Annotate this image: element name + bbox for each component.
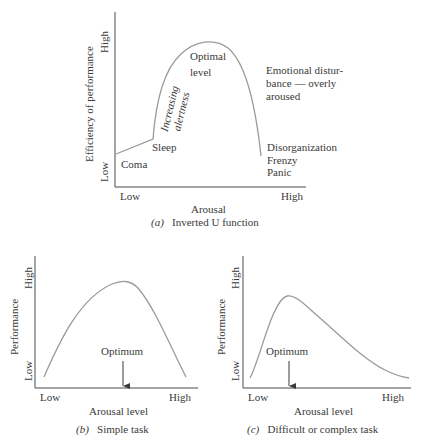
chart-a-caption-letter: (a)	[151, 216, 164, 228]
chart-c-x-label: Arousal level	[294, 405, 353, 418]
annotation-disorg-line1: Disorganization	[267, 141, 337, 154]
chart-c-caption: (c) Difficult or complex task	[247, 423, 378, 436]
chart-b-optimum-label: Optimum	[101, 345, 143, 358]
chart-c-axes	[243, 256, 411, 388]
annotation-emotional-line1: Emotional distur-	[266, 64, 343, 77]
chart-a-y-high: High	[98, 31, 111, 53]
chart-c-y-high: High	[229, 267, 242, 289]
chart-b-y-high: High	[22, 267, 35, 289]
chart-a-y-low: Low	[98, 162, 111, 182]
chart-c-x-high: High	[382, 391, 404, 404]
chart-c-optimum-label: Optimum	[266, 345, 308, 358]
chart-a-caption-text: Inverted U function	[172, 216, 259, 228]
chart-a-caption: (a) Inverted U function	[151, 216, 259, 229]
annotation-emotional-line3: aroused	[266, 90, 300, 103]
chart-b-caption-text: Simple task	[97, 423, 149, 435]
chart-b-y-label: Performance	[8, 299, 21, 355]
annotation-optimal-line2: level	[190, 66, 211, 79]
chart-c-y-low: Low	[229, 361, 242, 381]
chart-c-caption-letter: (c)	[247, 423, 259, 435]
annotation-disorg-line3: Panic	[267, 166, 291, 179]
chart-a-x-low: Low	[120, 190, 140, 203]
annotation-coma: Coma	[121, 158, 147, 171]
chart-b-caption-letter: (b)	[76, 423, 89, 435]
chart-b-x-high: High	[169, 391, 191, 404]
chart-a-y-label: Efficiency of performance	[83, 46, 96, 162]
chart-c-curve	[250, 296, 409, 378]
chart-c-x-low: Low	[248, 391, 268, 404]
chart-b-x-label: Arousal level	[89, 405, 148, 418]
chart-b-curve	[44, 281, 186, 377]
chart-a-x-high: High	[281, 190, 303, 203]
chart-b-x-low: Low	[40, 391, 60, 404]
chart-b-axes	[35, 256, 198, 388]
chart-c-y-label: Performance	[215, 299, 228, 355]
chart-b-y-low: Low	[22, 361, 35, 381]
chart-b-caption: (b) Simple task	[76, 423, 149, 436]
annotation-emotional-line2: bance — overly	[266, 77, 336, 90]
chart-a-x-label: Arousal	[191, 203, 226, 216]
annotation-optimal-line1: Optimal	[190, 50, 226, 63]
chart-c-caption-text: Difficult or complex task	[267, 423, 378, 435]
